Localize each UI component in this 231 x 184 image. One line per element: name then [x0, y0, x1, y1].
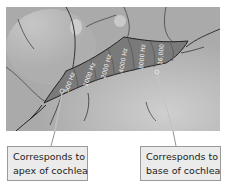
callout-base-line2: base of cochlea — [146, 164, 220, 178]
callout-apex-line2: apex of cochlea — [13, 164, 87, 178]
callout-base: Corresponds to base of cochlea — [140, 146, 221, 181]
callout-apex: Corresponds to apex of cochlea — [7, 146, 88, 181]
auditory-cortex-illustration: 500 Hz 1000 Hz 2000 Hz 4000 Hz 8000 Hz 1… — [6, 7, 220, 131]
leader-lines-below — [0, 131, 231, 147]
callout-apex-line1: Corresponds to — [13, 150, 87, 164]
brain-surface-drawing: 500 Hz 1000 Hz 2000 Hz 4000 Hz 8000 Hz 1… — [6, 7, 220, 131]
callout-base-line1: Corresponds to — [146, 150, 220, 164]
